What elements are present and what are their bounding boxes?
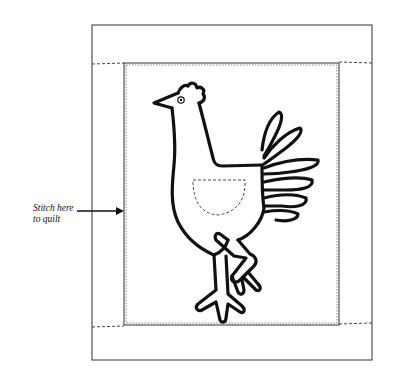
tail-feather-5 [264, 195, 306, 207]
seam-lines [92, 62, 372, 327]
rooster-beak [154, 93, 178, 108]
rooster-neck-back [199, 103, 262, 166]
tail-feather-3 [264, 159, 318, 174]
quilt-diagram [0, 0, 393, 383]
stitch-annotation: Stitch here to quilt [33, 203, 74, 225]
rooster-eye [178, 97, 184, 103]
tail-feather-6 [264, 211, 298, 221]
annotation-line-2: to quilt [33, 214, 74, 225]
tail-feather-4 [264, 178, 312, 190]
rooster-pocket [193, 180, 245, 215]
annotation-line-1: Stitch here [33, 203, 74, 214]
rooster-applique [154, 83, 318, 322]
rooster-breast [172, 108, 214, 255]
rooster-tail-base [238, 165, 264, 240]
outer-frame [92, 25, 372, 360]
arrow-icon [77, 207, 124, 215]
